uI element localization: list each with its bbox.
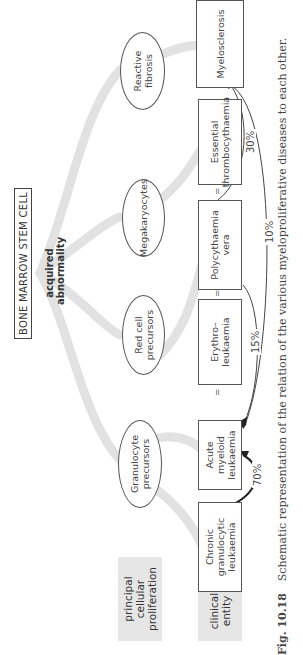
transition-label-10: 10% <box>264 219 275 245</box>
equivalence-mark: = <box>212 187 222 195</box>
row-label-principal-cellular-proliferation: principal cellular proliferation <box>118 557 162 641</box>
ellipse-red-cell-precursors: Red cell precursors <box>122 295 165 375</box>
box-essential-thrombocythaemia: Essential thrombocythaemia <box>198 99 242 185</box>
equivalence-mark: = <box>212 289 222 297</box>
caption-text: Schematic representation of the relation… <box>276 38 289 582</box>
transition-label-30: 30% <box>245 129 256 155</box>
ellipse-megakaryocytes: Megakaryocytes <box>122 179 165 257</box>
myeloproliferative-diagram: BONE MARROW STEM CELL acquired abnormali… <box>0 0 303 655</box>
ellipse-granulocyte-precursors: Granulocyte precursors <box>118 420 162 508</box>
box-polycythaemia-vera: Polycythaemia vera <box>198 200 242 290</box>
box-erythroleukaemia: Erythro– leukaemia <box>198 299 242 385</box>
figure-caption: Fig. 10.18Schematic representation of th… <box>276 0 289 655</box>
figure-number: Fig. 10.18 <box>276 593 289 655</box>
bone-marrow-stem-cell-box: BONE MARROW STEM CELL <box>14 188 32 339</box>
box-chronic-granulocytic-leukaemia: Chronic granulocytic leukaemia <box>198 502 242 592</box>
box-acute-myeloid-leukaemia: Acute myeloid leukaemia <box>198 420 242 490</box>
ellipse-reactive-fibrosis: Reactive fibrosis <box>120 32 165 110</box>
transition-label-15: 15% <box>250 329 261 355</box>
equivalence-mark: = <box>212 388 222 396</box>
transition-label-70: 70% <box>252 462 263 488</box>
box-myelosclerosis: Myelosclerosis <box>196 0 244 88</box>
acquired-abnormality-label: acquired abnormality <box>44 241 66 305</box>
